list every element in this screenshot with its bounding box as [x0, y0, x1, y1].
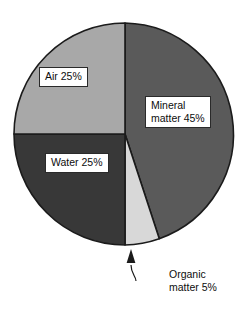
- pie-slice-water[interactable]: [14, 134, 125, 245]
- pie-chart-canvas: [0, 0, 251, 309]
- pie-label-mineral-matter: Mineral matter 45%: [145, 96, 211, 128]
- organic-callout-leader-line: [131, 265, 136, 281]
- pie-label-water: Water 25%: [45, 153, 109, 173]
- pie-label-organic-matter: Organic matter 5%: [169, 268, 217, 294]
- organic-callout-arrow-icon: [127, 249, 136, 263]
- pie-chart-figure: Air 25% Mineral matter 45% Water 25% Org…: [0, 0, 251, 309]
- pie-label-air: Air 25%: [39, 67, 88, 87]
